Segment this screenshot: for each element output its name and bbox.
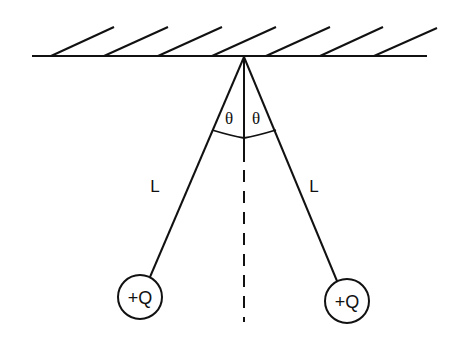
charge-left-label: +Q: [128, 288, 153, 308]
charge-right-label: +Q: [335, 292, 360, 312]
pendulum-diagram: θ θ L L +Q +Q: [0, 0, 457, 340]
charge-left: +Q: [118, 275, 162, 319]
charge-right: +Q: [325, 279, 369, 323]
length-left-label: L: [150, 177, 159, 196]
ceiling-hatching: [51, 27, 437, 56]
angle-arc-left: [212, 130, 244, 138]
string-right: [244, 57, 337, 281]
theta-right-label: θ: [252, 109, 260, 128]
length-right-label: L: [309, 177, 318, 196]
theta-left-label: θ: [225, 109, 233, 128]
angle-arc-right: [244, 130, 276, 138]
string-left: [150, 57, 244, 277]
